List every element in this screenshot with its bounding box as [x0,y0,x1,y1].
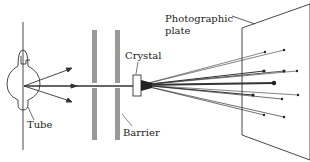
barrier [90,30,132,140]
plate-leader-line [232,16,255,24]
tube-label: Tube [27,119,52,131]
crystal-leader-line [136,62,138,74]
plate-label-line1: Photographic [165,13,233,25]
xray-diffraction-diagram: Tube Barrier Crystal Photographic plate [0,0,310,162]
plate-label-line2: plate [165,25,191,37]
barrier-leader-line [122,114,132,126]
crystal-label: Crystal [125,50,161,62]
photographic-plate [232,4,310,160]
barrier-label: Barrier [123,127,160,139]
crystal [133,62,141,96]
